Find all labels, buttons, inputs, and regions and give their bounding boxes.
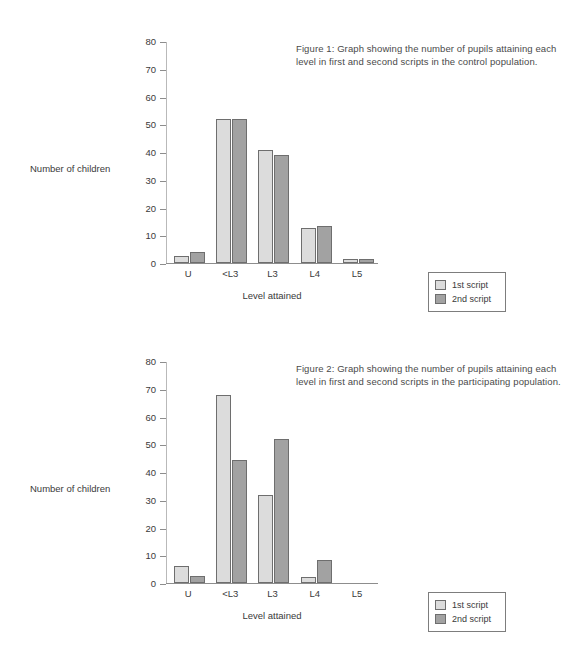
y-axis-tick: 20 [160,209,166,210]
figure-2-bar-groups: U<L3L3L4L5 [167,362,378,583]
legend-row-series-1: 1st script [435,598,499,612]
figure-2-legend: 1st script 2nd script [428,592,506,632]
figure-1: Figure 1: Graph showing the number of pu… [0,0,580,328]
bar-L3-series2 [274,439,289,583]
bar-group-L3: L3 [251,42,293,263]
y-axis-tick-label: 60 [145,92,156,103]
y-axis-tick-label: 80 [145,36,156,47]
y-axis-tick-label: 70 [145,64,156,75]
bar-L4-series1 [301,228,316,263]
y-axis-tick: 80 [160,42,166,43]
y-axis-tick: 10 [160,556,166,557]
y-axis-tick: 0 [160,584,166,585]
legend-swatch-1st-script-icon [435,600,446,610]
y-axis-tick: 50 [160,125,166,126]
y-axis-tick-label: 10 [145,550,156,561]
figure-1-plot-area: 01020304050607080 U<L3L3L4L5 [166,42,378,264]
x-axis-tick-label: <L3 [209,268,251,279]
x-axis-tick-label: U [167,588,209,599]
legend-label-2nd-script: 2nd script [452,614,491,624]
x-axis-tick-label: L4 [294,588,336,599]
legend-label-2nd-script: 2nd script [452,294,491,304]
x-axis-tick-label: L4 [294,268,336,279]
y-axis-tick: 40 [160,473,166,474]
y-axis-tick: 70 [160,70,166,71]
y-axis-tick-label: 20 [145,203,156,214]
bar-group-U: U [167,42,209,263]
bar-U-series2 [190,252,205,263]
bar-L3-series1 [216,119,231,263]
figure-1-x-axis-line [166,263,378,264]
y-axis-tick: 50 [160,445,166,446]
y-axis-tick-label: 0 [151,258,156,269]
bar-L4-series2 [317,560,332,583]
x-axis-tick-label: L3 [251,268,293,279]
y-axis-tick-label: 80 [145,356,156,367]
legend-label-1st-script: 1st script [452,280,488,290]
y-axis-tick: 40 [160,153,166,154]
bar-group-L3: L3 [251,362,293,583]
y-axis-tick-label: 40 [145,147,156,158]
y-axis-tick-label: 50 [145,439,156,450]
figures-page: { "colors": { "series1": "#dcdcdc", "ser… [0,0,580,656]
figure-1-x-axis-label: Level attained [166,290,378,301]
y-axis-tick: 60 [160,98,166,99]
y-axis-tick-label: 60 [145,412,156,423]
bar-group-L4: L4 [294,362,336,583]
bar-group-L5: L5 [336,42,378,263]
y-axis-tick-label: 70 [145,384,156,395]
legend-row-series-1: 1st script [435,278,499,292]
x-axis-tick-label: U [167,268,209,279]
y-axis-tick: 30 [160,501,166,502]
y-axis-tick: 20 [160,529,166,530]
y-axis-tick-label: 0 [151,578,156,589]
x-axis-tick-label: <L3 [209,588,251,599]
bar-L4-series1 [301,577,316,583]
y-axis-tick-label: 40 [145,467,156,478]
legend-swatch-2nd-script-icon [435,294,446,304]
figure-2-plot-area: 01020304050607080 U<L3L3L4L5 [166,362,378,584]
bar-group-L4: L4 [294,42,336,263]
y-axis-tick: 80 [160,362,166,363]
figure-2-y-axis-label: Number of children [30,483,110,494]
x-axis-tick-label: L3 [251,588,293,599]
y-axis-tick-label: 50 [145,119,156,130]
legend-swatch-2nd-script-icon [435,614,446,624]
y-axis-tick-label: 30 [145,495,156,506]
bar-U-series2 [190,576,205,583]
bar-group-L3: <L3 [209,362,251,583]
y-axis-tick-label: 30 [145,175,156,186]
figure-1-legend: 1st script 2nd script [428,272,506,312]
figure-1-y-axis-label: Number of children [30,163,110,174]
bar-L3-series2 [232,460,247,583]
x-axis-tick-label: L5 [336,588,378,599]
bar-L5-series1 [343,259,358,263]
bar-L3-series2 [274,155,289,263]
y-axis-tick-label: 10 [145,230,156,241]
bar-group-L3: <L3 [209,42,251,263]
y-axis-tick: 10 [160,236,166,237]
figure-2-x-axis-label: Level attained [166,610,378,621]
figure-2-x-axis-line [166,583,378,584]
bar-L3-series1 [216,395,231,583]
x-axis-tick-label: L5 [336,268,378,279]
y-axis-tick-label: 20 [145,523,156,534]
legend-label-1st-script: 1st script [452,600,488,610]
y-axis-tick: 30 [160,181,166,182]
bar-L3-series2 [232,119,247,263]
bar-group-L5: L5 [336,362,378,583]
figure-2: Figure 2: Graph showing the number of pu… [0,320,580,656]
bar-group-U: U [167,362,209,583]
legend-swatch-1st-script-icon [435,280,446,290]
y-axis-tick: 70 [160,390,166,391]
bar-L5-series2 [359,259,374,263]
bar-L4-series2 [317,226,332,263]
bar-L3-series1 [258,150,273,263]
bar-U-series1 [174,256,189,263]
bar-L3-series1 [258,495,273,583]
y-axis-tick: 0 [160,264,166,265]
legend-row-series-2: 2nd script [435,612,499,626]
y-axis-tick: 60 [160,418,166,419]
figure-1-bar-groups: U<L3L3L4L5 [167,42,378,263]
legend-row-series-2: 2nd script [435,292,499,306]
